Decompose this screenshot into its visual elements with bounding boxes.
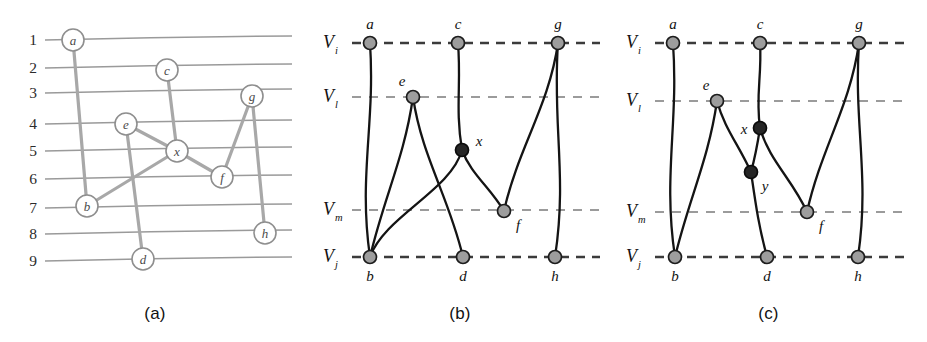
node-marker-x-dummy: [456, 144, 469, 157]
node-marker-g-real: [552, 37, 565, 50]
row-numbers: 123456789: [29, 31, 37, 269]
panel-b: ViVlVmVjacgexfbdh (b): [300, 0, 620, 342]
node-f[interactable]: f: [498, 205, 522, 234]
node-e[interactable]: e: [399, 73, 420, 104]
node-y[interactable]: y: [745, 166, 769, 195]
panel-a-caption: (a): [0, 304, 310, 324]
node-label-b: b: [84, 199, 91, 214]
node-label-d: d: [459, 268, 467, 284]
node-marker-e-real: [711, 95, 724, 108]
node-label-h: h: [262, 226, 269, 241]
node-marker-b-real: [669, 251, 682, 264]
edge-g-h: [555, 43, 560, 257]
node-c[interactable]: c: [754, 16, 767, 50]
panel-c-caption: (c): [610, 304, 927, 324]
edges: [670, 43, 862, 257]
edge-a-b: [670, 43, 675, 257]
node-label-d: d: [763, 268, 771, 284]
node-h[interactable]: h: [852, 251, 865, 285]
node-f[interactable]: f: [211, 166, 233, 188]
node-label-c: c: [757, 16, 764, 32]
node-label-h: h: [854, 268, 862, 284]
node-label-f: f: [516, 217, 522, 233]
edge-x-f: [462, 150, 504, 211]
row-number-7: 7: [29, 199, 37, 216]
node-f[interactable]: f: [801, 206, 825, 235]
row-number-2: 2: [29, 59, 37, 76]
panel-c: ViVlVmVjacgexyfbdh (c): [610, 0, 927, 342]
node-g[interactable]: g: [552, 16, 565, 50]
panel-c-canvas: ViVlVmVjacgexyfbdh: [610, 0, 927, 300]
row-number-8: 8: [29, 225, 37, 242]
row-number-3: 3: [29, 84, 37, 101]
node-label-x: x: [475, 133, 483, 149]
edge-x-b: [370, 150, 462, 257]
node-marker-e-real: [407, 91, 420, 104]
layer-label-Vl: Vl: [626, 90, 641, 114]
node-a[interactable]: a: [364, 16, 377, 50]
node-x[interactable]: x: [166, 140, 188, 162]
panel-a-canvas: 123456789acgexfbhd: [0, 0, 310, 300]
layer-lines: [352, 43, 600, 257]
node-marker-a-real: [667, 37, 680, 50]
layer-label-Vl: Vl: [323, 86, 338, 110]
layer-label-Vj: Vj: [626, 246, 641, 270]
edge-f-g: [222, 96, 252, 177]
node-marker-a-real: [364, 37, 377, 50]
node-label-h: h: [551, 268, 559, 284]
node-d[interactable]: d: [457, 251, 470, 285]
layer-labels: ViVlVmVj: [626, 32, 646, 270]
row-number-1: 1: [29, 31, 37, 48]
nodes: acgexyfbdh: [667, 16, 866, 284]
edge-g-h: [858, 43, 863, 257]
layer-labels: ViVlVmVj: [323, 32, 343, 270]
node-d[interactable]: d: [132, 248, 154, 270]
grid-line-row-6: [45, 175, 292, 179]
node-h[interactable]: h: [254, 222, 276, 244]
node-marker-b-real: [364, 251, 377, 264]
panel-b-canvas: ViVlVmVjacgexfbdh: [300, 0, 620, 300]
node-c[interactable]: c: [452, 16, 465, 50]
row-number-6: 6: [29, 170, 37, 187]
edge-c-x: [167, 70, 177, 151]
layer-label-Vj: Vj: [323, 246, 338, 270]
node-label-b: b: [366, 268, 374, 284]
node-h[interactable]: h: [549, 251, 562, 285]
panel-b-caption: (b): [300, 304, 620, 324]
node-label-g: g: [249, 89, 256, 104]
node-e[interactable]: e: [703, 77, 724, 108]
row-number-9: 9: [29, 252, 37, 269]
node-a[interactable]: a: [62, 29, 84, 51]
node-marker-y-dummy: [745, 166, 758, 179]
node-label-x: x: [173, 144, 180, 159]
node-label-a: a: [366, 16, 374, 32]
node-e[interactable]: e: [115, 113, 137, 135]
edge-g-h: [252, 96, 265, 233]
node-g[interactable]: g: [241, 85, 263, 107]
edge-e-b: [675, 101, 717, 257]
grid-line-row-9: [45, 257, 292, 261]
layer-label-Vi: Vi: [626, 32, 641, 56]
node-d[interactable]: d: [761, 251, 774, 285]
layer-label-Vm: Vm: [323, 199, 343, 223]
node-label-g: g: [855, 16, 863, 32]
node-b[interactable]: b: [364, 251, 377, 285]
node-c[interactable]: c: [156, 59, 178, 81]
layer-lines: [655, 43, 910, 257]
layer-label-sub-Vl: l: [335, 99, 338, 110]
node-x[interactable]: x: [740, 121, 767, 137]
edge-g-f: [504, 43, 558, 211]
node-marker-d-real: [457, 251, 470, 264]
layer-label-sub-Vi: i: [335, 45, 338, 56]
node-a[interactable]: a: [667, 16, 680, 50]
edge-x-f: [760, 128, 807, 212]
node-b[interactable]: b: [669, 251, 682, 285]
node-marker-h-real: [852, 251, 865, 264]
edge-a-b: [366, 43, 371, 257]
row-number-4: 4: [29, 115, 37, 132]
node-g[interactable]: g: [853, 16, 866, 50]
node-label-y: y: [760, 178, 769, 194]
node-b[interactable]: b: [76, 195, 98, 217]
panel-a: 123456789acgexfbhd (a): [0, 0, 310, 342]
node-marker-x-dummy: [754, 122, 767, 135]
